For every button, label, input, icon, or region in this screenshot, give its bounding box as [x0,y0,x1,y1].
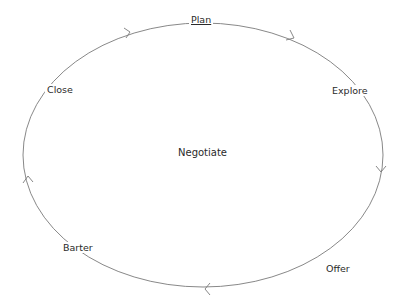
stage-close: Close [45,84,75,95]
stage-offer: Offer [324,263,352,274]
stage-explore: Explore [330,85,370,96]
arrow-icon [23,176,33,183]
arrow-icon [205,283,210,295]
arrow-icon [376,166,386,172]
stage-plan: Plan [189,14,213,25]
stage-barter: Barter [61,242,95,253]
center-label: Negotiate [178,147,227,158]
